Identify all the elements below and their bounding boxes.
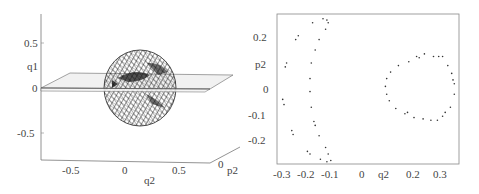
scatter-svg: 0.2 p2 0 -0.1 -0.2 -0.3 -0.2 -0.1 0 q2 0… <box>240 0 479 194</box>
data-point <box>407 112 409 114</box>
data-point <box>325 147 327 149</box>
data-point <box>422 118 424 120</box>
data-point <box>309 78 311 80</box>
data-point <box>447 65 449 67</box>
data-point <box>311 106 313 108</box>
data-point <box>318 39 320 41</box>
q2-axis-line <box>41 160 210 163</box>
data-point <box>295 39 297 41</box>
surface-3d-plot: 0.5 q1 0 -0.5 -0.5 0 0.5 q2 0 p2 <box>0 0 240 194</box>
data-point <box>291 130 293 132</box>
p2-tick-neg0.1: -0.1 <box>248 109 265 121</box>
data-point <box>307 151 309 153</box>
data-point <box>395 108 397 110</box>
data-point <box>444 112 446 114</box>
data-point <box>326 161 328 163</box>
data-point <box>424 53 426 55</box>
scatter-points <box>282 18 455 163</box>
q2-axis-label: q2 <box>144 174 155 186</box>
data-point <box>325 28 327 30</box>
q1-tick-0.5: 0.5 <box>24 37 38 49</box>
p2-axis-label: p2 <box>227 164 238 176</box>
q2-tick-0: 0 <box>122 164 128 176</box>
data-point <box>314 49 316 51</box>
q2-tick-0: 0 <box>359 168 365 180</box>
q2-tick-0.2: 0.2 <box>406 168 420 180</box>
poincare-section-plot: 0.2 p2 0 -0.1 -0.2 -0.3 -0.2 -0.1 0 q2 0… <box>240 0 479 194</box>
q2-tick-neg0.1: -0.1 <box>321 168 338 180</box>
data-point <box>309 153 311 155</box>
p2-tick-0: 0 <box>218 158 224 170</box>
data-point <box>327 22 329 24</box>
data-point <box>389 100 391 102</box>
p2-tick-neg0.2: -0.2 <box>248 134 265 146</box>
data-point <box>292 134 294 136</box>
plot-frame <box>277 14 459 164</box>
data-point <box>442 116 444 118</box>
q2-tick-neg0.2: -0.2 <box>297 168 314 180</box>
surface-3d-svg: 0.5 q1 0 -0.5 -0.5 0 0.5 q2 0 p2 <box>0 0 240 194</box>
p2-tick-0.2: 0.2 <box>253 31 267 43</box>
data-point <box>390 71 392 73</box>
data-point <box>452 79 454 81</box>
data-point <box>285 66 287 68</box>
q2-tick-neg0.3: -0.3 <box>273 168 291 180</box>
data-point <box>385 86 387 88</box>
data-point <box>451 73 453 75</box>
data-point <box>326 19 328 21</box>
data-point <box>386 93 388 95</box>
data-point <box>437 119 439 121</box>
data-point <box>450 106 452 108</box>
data-point <box>311 62 313 64</box>
data-point <box>454 83 456 85</box>
data-point <box>283 104 285 106</box>
data-point <box>418 57 420 59</box>
data-point <box>408 61 410 63</box>
data-point <box>433 56 435 58</box>
data-point <box>282 99 284 101</box>
data-point <box>386 78 388 80</box>
data-point <box>404 113 406 115</box>
data-point <box>413 117 415 119</box>
q2-tick-0.3: 0.3 <box>433 168 447 180</box>
data-point <box>330 160 332 162</box>
data-point <box>309 91 311 93</box>
q2-tick-neg0.5: -0.5 <box>62 164 80 176</box>
data-point <box>318 135 320 137</box>
q2-axis-label: q2 <box>378 168 389 180</box>
data-point <box>313 121 315 123</box>
data-point <box>327 153 329 155</box>
p2-axis-line <box>210 147 240 163</box>
data-point <box>314 125 316 127</box>
p2-tick-0: 0 <box>263 83 269 95</box>
p2-axis-label: p2 <box>255 58 266 70</box>
q1-axis-label: q1 <box>27 60 38 72</box>
q1-tick-neg0.5: -0.5 <box>17 127 35 139</box>
data-point <box>322 18 324 20</box>
torus-wireframe <box>104 50 176 126</box>
data-point <box>320 158 322 160</box>
data-point <box>298 35 300 37</box>
data-point <box>430 119 432 121</box>
data-point <box>416 56 418 58</box>
data-point <box>442 56 444 58</box>
data-point <box>398 65 400 67</box>
data-point <box>438 56 440 58</box>
q1-tick-0: 0 <box>32 82 38 94</box>
data-point <box>312 22 314 24</box>
data-point <box>454 93 456 95</box>
q2-tick-0.5: 0.5 <box>172 164 186 176</box>
data-point <box>286 62 288 64</box>
